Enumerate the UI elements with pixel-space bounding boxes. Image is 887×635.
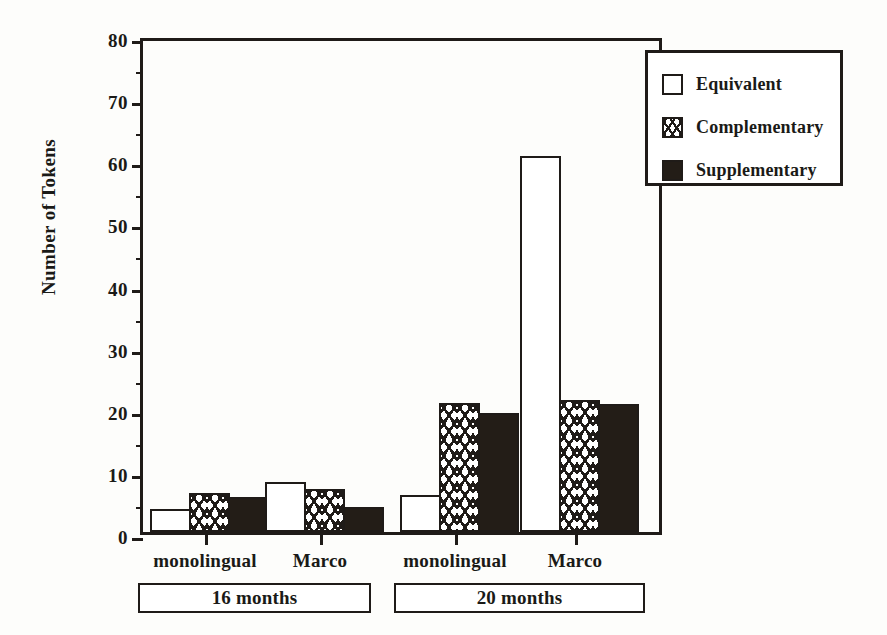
y-tick-label: 40 — [108, 279, 128, 301]
legend-item-complementary[interactable]: Complementary — [662, 109, 840, 145]
bar-equivalent-group1 — [150, 509, 192, 532]
bar-complementary-group2 — [304, 489, 346, 532]
bar-equivalent-group4 — [520, 156, 562, 532]
y-tick-minor — [136, 72, 143, 74]
bar-supplementary-group1 — [228, 497, 270, 532]
y-tick-label: 50 — [108, 216, 128, 238]
y-tick-label: 30 — [108, 341, 128, 363]
y-axis-title: Number of Tokens — [38, 139, 60, 295]
y-tick-minor — [136, 258, 143, 260]
x-tick — [320, 535, 323, 545]
x-tick — [455, 535, 458, 545]
y-tick-label: 70 — [108, 92, 128, 114]
y-tick-label: 60 — [108, 154, 128, 176]
plot-area: 80706050403020100 — [140, 38, 662, 535]
y-tick-minor — [136, 445, 143, 447]
x-tick — [575, 535, 578, 545]
x-axis-label-1: monolingual — [153, 550, 257, 572]
x-axis-label-4: Marco — [548, 550, 602, 572]
legend-item-supplementary[interactable]: Supplementary — [662, 152, 840, 188]
bars-layer — [143, 41, 659, 532]
x-axis-label-3: monolingual — [403, 550, 507, 572]
y-tick-label: 10 — [108, 465, 128, 487]
y-tick-major — [132, 476, 143, 479]
y-tick-major — [132, 227, 143, 230]
group-box-label: 16 months — [212, 587, 298, 609]
y-tick-minor — [136, 383, 143, 385]
complementary-swatch-icon — [662, 117, 683, 138]
y-tick-major — [132, 352, 143, 355]
x-axis-label-2: Marco — [293, 550, 347, 572]
equivalent-swatch-icon — [662, 74, 683, 95]
group-box-2: 20 months — [394, 583, 645, 613]
y-tick-label: 20 — [108, 403, 128, 425]
legend-label: Complementary — [696, 117, 824, 138]
group-box-label: 20 months — [477, 587, 563, 609]
chart-page: Number of Tokens 80706050403020100 monol… — [0, 0, 887, 635]
y-tick-major — [132, 414, 143, 417]
legend-label: Equivalent — [696, 74, 782, 95]
y-tick-minor — [136, 507, 143, 509]
y-tick-major — [132, 103, 143, 106]
bar-supplementary-group3 — [478, 413, 520, 532]
y-tick-label: 80 — [108, 30, 128, 52]
y-tick-major — [132, 165, 143, 168]
bar-complementary-group1 — [189, 493, 231, 532]
bar-complementary-group4 — [559, 400, 601, 532]
bar-equivalent-group3 — [400, 495, 442, 532]
supplementary-swatch-icon — [662, 160, 683, 181]
legend-label: Supplementary — [696, 160, 817, 181]
chart-legend: EquivalentComplementarySupplementary — [645, 50, 843, 186]
bar-complementary-group3 — [439, 403, 481, 532]
y-tick-minor — [136, 321, 143, 323]
group-box-1: 16 months — [138, 583, 371, 613]
y-tick-label: 0 — [118, 527, 128, 549]
x-tick — [205, 535, 208, 545]
bar-supplementary-group2 — [343, 507, 385, 532]
y-tick-major — [132, 290, 143, 293]
y-tick-major — [132, 538, 143, 541]
legend-item-equivalent[interactable]: Equivalent — [662, 66, 840, 102]
y-tick-major — [132, 41, 143, 44]
y-tick-minor — [136, 196, 143, 198]
bar-supplementary-group4 — [598, 404, 640, 532]
bar-equivalent-group2 — [265, 482, 307, 532]
y-tick-minor — [136, 134, 143, 136]
